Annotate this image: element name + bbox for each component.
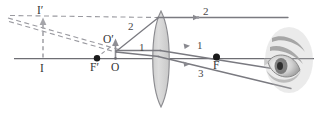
dashed-extension-ray-three: [9, 22, 117, 53]
ray-three-direction-icon: [183, 61, 190, 66]
label-object-base: O: [111, 62, 119, 74]
ray-one-direction-icon: [184, 44, 190, 49]
label-ray-two-left: 2: [128, 21, 134, 32]
label-object-top: O′: [103, 34, 114, 46]
ray-two-incident: [116, 18, 159, 52]
image-arrow-head: [40, 18, 47, 26]
virtual-ray-extensions: [8, 16, 157, 53]
eye-pupil-icon: [277, 62, 283, 70]
label-ray-three: 3: [198, 68, 204, 79]
observer-eye: [264, 27, 313, 93]
label-ray-two-right: 2: [203, 6, 209, 17]
ray-two-mark-dot: [197, 16, 200, 19]
label-focal-far: F: [213, 60, 219, 72]
label-image-top: I′: [37, 5, 43, 17]
label-ray-one-right: 1: [197, 40, 203, 51]
virtual-image-arrow: [40, 18, 47, 58]
dashed-extension-upper: [10, 16, 157, 18]
optics-diagram-figure: I′ I O′ O F′ F 1 1 2 2 3: [0, 0, 314, 117]
label-focal-near: F′: [90, 62, 99, 74]
ray-diagram-canvas: [0, 0, 314, 117]
object-base-dot: [114, 57, 117, 60]
label-image-base: I: [40, 63, 44, 75]
label-ray-one-left: 1: [139, 42, 145, 53]
